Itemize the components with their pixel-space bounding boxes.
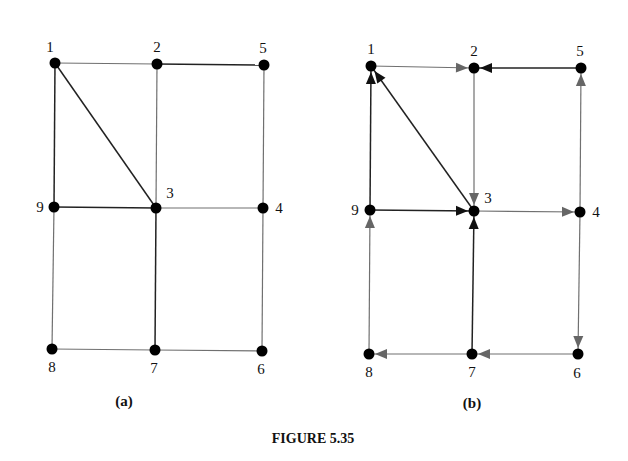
- node-label-9: 9: [36, 199, 44, 215]
- node-7: [150, 345, 161, 356]
- node-4: [258, 203, 269, 214]
- arrowhead-icon: [375, 349, 387, 359]
- node-2: [152, 59, 163, 70]
- edge-1-2: [55, 63, 157, 64]
- edge-9-1: [370, 66, 371, 210]
- node-label-4: 4: [275, 200, 283, 216]
- edge-2-3: [156, 64, 157, 208]
- edge-3-1: [371, 66, 474, 211]
- arrowhead-icon: [365, 216, 375, 228]
- node-label-7: 7: [468, 364, 476, 380]
- edge-7-3: [472, 211, 474, 354]
- edge-7-6: [155, 350, 262, 351]
- arrowhead-icon: [469, 217, 479, 229]
- arrowhead-icon: [480, 63, 492, 73]
- edge-3-7: [155, 208, 156, 350]
- node-9: [365, 205, 376, 216]
- arrowhead-icon: [456, 206, 468, 216]
- graph-b-caption: (b): [463, 395, 481, 412]
- node-label-4: 4: [592, 204, 600, 220]
- node-1: [50, 58, 61, 69]
- node-label-3: 3: [166, 185, 174, 201]
- node-8: [47, 344, 58, 355]
- arrowhead-icon: [375, 71, 386, 84]
- node-9: [49, 202, 60, 213]
- node-5: [576, 63, 587, 74]
- graph-a-caption: (a): [115, 393, 133, 410]
- edge-4-6: [578, 212, 580, 354]
- edge-4-5: [580, 68, 581, 212]
- arrowhead-icon: [456, 63, 468, 73]
- node-6: [257, 346, 268, 357]
- node-label-1: 1: [367, 41, 375, 57]
- node-6: [573, 349, 584, 360]
- edge-8-7: [52, 349, 155, 350]
- arrowhead-icon: [576, 74, 586, 86]
- edge-2-5: [157, 64, 264, 65]
- edge-5-4: [263, 65, 264, 208]
- node-2: [469, 63, 480, 74]
- arrowhead-icon: [366, 72, 376, 84]
- figure-canvas: 125934876 (a) 125934876 (b) FIGURE 5.35: [0, 0, 628, 461]
- node-1: [366, 61, 377, 72]
- node-3: [151, 203, 162, 214]
- node-4: [575, 207, 586, 218]
- figure-title: FIGURE 5.35: [272, 431, 354, 446]
- edge-9-3: [54, 207, 156, 208]
- node-label-6: 6: [573, 365, 581, 381]
- edge-8-9: [369, 210, 370, 354]
- node-7: [467, 349, 478, 360]
- edge-9-8: [52, 207, 54, 349]
- node-label-9: 9: [351, 202, 359, 218]
- node-label-3: 3: [484, 190, 492, 206]
- arrowhead-icon: [469, 193, 479, 205]
- edge-1-3: [55, 63, 156, 208]
- node-5: [259, 60, 270, 71]
- node-label-2: 2: [153, 39, 161, 55]
- node-label-5: 5: [259, 40, 267, 56]
- node-3: [469, 206, 480, 217]
- graph-b: 125934876 (b): [351, 41, 600, 412]
- edge-1-9: [54, 63, 55, 207]
- node-label-5: 5: [576, 43, 584, 59]
- arrowhead-icon: [478, 349, 490, 359]
- arrowhead-icon: [562, 207, 574, 217]
- graph-a: 125934876 (a): [36, 39, 283, 410]
- edge-4-6: [262, 208, 263, 351]
- node-label-1: 1: [46, 39, 54, 55]
- node-label-6: 6: [257, 361, 265, 377]
- node-label-8: 8: [48, 359, 56, 375]
- node-label-8: 8: [365, 364, 373, 380]
- node-8: [364, 349, 375, 360]
- arrowhead-icon: [573, 336, 583, 348]
- node-label-2: 2: [470, 43, 478, 59]
- node-label-7: 7: [150, 360, 158, 376]
